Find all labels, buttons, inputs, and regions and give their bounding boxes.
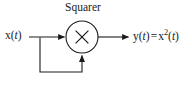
input-function-name: x <box>5 29 11 41</box>
squarer-block-diagram: Squarer x(t) y(t)=x2(t) <box>0 0 192 85</box>
block-title-squarer: Squarer <box>0 2 166 14</box>
input-signal-label: x(t) <box>5 30 22 42</box>
equals-sign: = <box>150 30 159 42</box>
input-variable: t <box>15 29 18 41</box>
output-variable-left: t <box>143 30 146 42</box>
output-function-name: y <box>133 30 139 42</box>
output-variable-right: t <box>172 30 175 42</box>
output-signal-label: y(t)=x2(t) <box>133 29 179 42</box>
output-expression-exponent: 2 <box>164 28 168 37</box>
